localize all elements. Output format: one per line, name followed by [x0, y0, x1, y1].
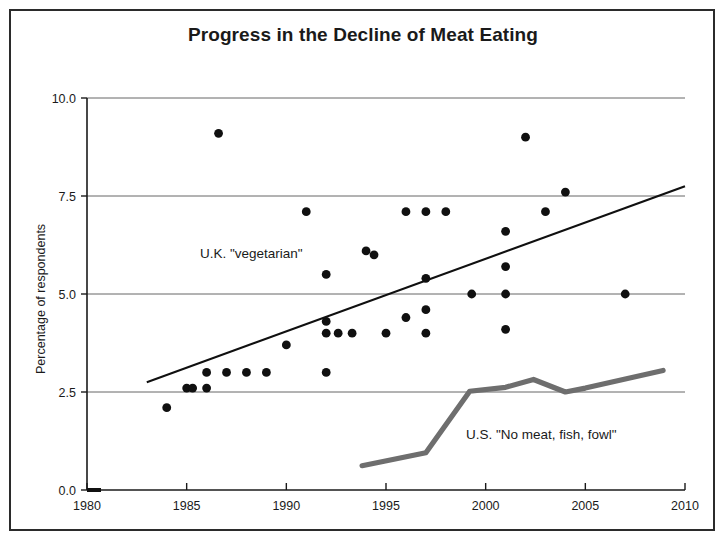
scatter-point [322, 368, 331, 377]
scatter-point [421, 305, 430, 314]
scatter-point [214, 129, 223, 138]
scatter-point [382, 329, 391, 338]
scatter-point [370, 250, 379, 259]
x-tick-label: 2000 [472, 499, 500, 513]
uk-trend-line-group [147, 186, 685, 382]
scatter-point [322, 270, 331, 279]
scatter-point [541, 207, 550, 216]
scatter-point [521, 133, 530, 142]
plot-area: 0.02.55.07.510.0 19801985199019952000200… [0, 0, 726, 542]
scatter-point [501, 227, 510, 236]
chart-figure: Progress in the Decline of Meat Eating P… [0, 0, 726, 542]
scatter-point [282, 341, 291, 350]
scatter-point [348, 329, 357, 338]
scatter-point [402, 313, 411, 322]
scatter-point [421, 329, 430, 338]
y-tick-label: 0.0 [59, 484, 76, 498]
scatter-point [322, 329, 331, 338]
trend-line [147, 186, 685, 382]
us-series-line-group [362, 370, 663, 465]
scatter-point [202, 368, 211, 377]
us-series-line [362, 370, 663, 465]
scatter-point [441, 207, 450, 216]
scatter-point [202, 384, 211, 393]
scatter-point [561, 188, 570, 197]
us-series-annotation: U.S. "No meat, fish, fowl" [466, 427, 617, 442]
scatter-point [162, 403, 171, 412]
y-ticks-group: 0.02.55.07.510.0 [52, 92, 87, 498]
x-tick-label: 2005 [571, 499, 599, 513]
uk-scatter-points-group [162, 129, 629, 412]
scatter-point [242, 368, 251, 377]
scatter-point [334, 329, 343, 338]
scatter-point [501, 325, 510, 334]
y-tick-label: 10.0 [52, 92, 76, 106]
gridlines-group [87, 98, 685, 392]
scatter-point [621, 290, 630, 299]
y-tick-label: 5.0 [59, 288, 76, 302]
scatter-point [302, 207, 311, 216]
y-tick-label: 2.5 [59, 386, 76, 400]
scatter-point [222, 368, 231, 377]
x-tick-label: 2010 [671, 499, 699, 513]
x-ticks-group: 1980198519901995200020052010 [73, 483, 699, 513]
y-tick-label: 7.5 [59, 190, 76, 204]
scatter-point [501, 290, 510, 299]
scatter-point [467, 290, 476, 299]
scatter-point [188, 384, 197, 393]
scatter-point [402, 207, 411, 216]
scatter-point [421, 207, 430, 216]
scatter-point [262, 368, 271, 377]
x-tick-label: 1985 [173, 499, 201, 513]
uk-series-annotation: U.K. "vegetarian" [200, 246, 303, 261]
x-tick-label: 1990 [272, 499, 300, 513]
x-tick-label: 1995 [372, 499, 400, 513]
x-tick-label: 1980 [73, 499, 101, 513]
scatter-point [362, 246, 371, 255]
scatter-point [501, 262, 510, 271]
